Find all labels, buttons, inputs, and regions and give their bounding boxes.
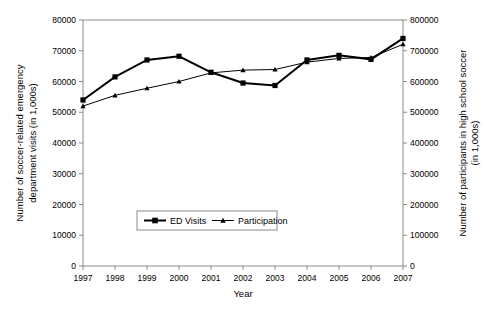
x-axis-tick-label-0: 1997 xyxy=(74,273,93,283)
datapoint-participation-2007 xyxy=(400,42,405,47)
left-axis-tick-label-3: 30000 xyxy=(52,169,76,179)
legend-label-ed-visits: ED Visits xyxy=(170,216,207,226)
x-axis-tick-label-1: 1998 xyxy=(106,273,125,283)
x-axis-tick-label-6: 2003 xyxy=(266,273,285,283)
x-axis-tick-label-5: 2002 xyxy=(234,273,253,283)
right-axis-tick-label-5: 500000 xyxy=(410,107,439,117)
left-axis-tick-label-0: 0 xyxy=(71,261,76,271)
datapoint-ed-visits-2003 xyxy=(272,83,277,88)
datapoint-ed-visits-1998 xyxy=(112,74,117,79)
datapoint-ed-visits-2002 xyxy=(240,80,245,85)
left-axis-title-line1: Number of soccer-related emergency xyxy=(14,64,25,221)
datapoint-ed-visits-2000 xyxy=(176,54,181,59)
right-axis-tick-label-7: 700000 xyxy=(410,46,439,56)
x-axis-tick-label-8: 2005 xyxy=(330,273,349,283)
right-axis-tick-label-1: 100000 xyxy=(410,230,439,240)
right-axis-title-line2: (in 1,000s) xyxy=(469,121,480,166)
x-axis-tick-label-4: 2001 xyxy=(202,273,221,283)
x-axis-tick-label-10: 2007 xyxy=(394,273,413,283)
left-axis-tick-label-7: 70000 xyxy=(52,46,76,56)
x-axis-tick-label-3: 2000 xyxy=(170,273,189,283)
left-axis-title-line2: department visits (in 1,000s) xyxy=(27,83,38,202)
series-line-participation xyxy=(83,44,403,106)
datapoint-ed-visits-2007 xyxy=(400,36,405,41)
left-axis-tick-label-4: 40000 xyxy=(52,138,76,148)
datapoint-ed-visits-1999 xyxy=(144,57,149,62)
legend-label-participation: Participation xyxy=(238,216,288,226)
datapoint-ed-visits-1997 xyxy=(80,97,85,102)
x-axis-title: Year xyxy=(233,288,252,299)
x-axis-tick-label-9: 2006 xyxy=(362,273,381,283)
x-axis-tick-label-7: 2004 xyxy=(298,273,317,283)
right-axis-tick-label-6: 600000 xyxy=(410,77,439,87)
chart-container: 0100002000030000400005000060000700008000… xyxy=(0,0,484,310)
dual-axis-line-chart: 0100002000030000400005000060000700008000… xyxy=(0,0,484,310)
right-axis-title-line1: Number of participants in high school so… xyxy=(457,50,468,237)
left-axis-tick-label-8: 80000 xyxy=(52,15,76,25)
right-axis-tick-label-0: 0 xyxy=(410,261,415,271)
right-axis-tick-label-3: 300000 xyxy=(410,169,439,179)
left-axis-tick-label-2: 20000 xyxy=(52,200,76,210)
left-axis-tick-label-1: 10000 xyxy=(52,230,76,240)
left-axis-tick-label-5: 50000 xyxy=(52,107,76,117)
left-axis-tick-label-6: 60000 xyxy=(52,77,76,87)
x-axis-tick-label-2: 1999 xyxy=(138,273,157,283)
right-axis-tick-label-8: 800000 xyxy=(410,15,439,25)
right-axis-tick-label-4: 400000 xyxy=(410,138,439,148)
right-axis-tick-label-2: 200000 xyxy=(410,200,439,210)
square-marker-icon xyxy=(152,218,158,224)
